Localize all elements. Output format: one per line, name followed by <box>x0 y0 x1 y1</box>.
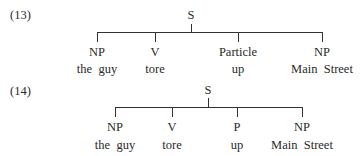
node-words: up <box>232 62 245 76</box>
node-words: Main Street <box>271 138 333 152</box>
node-label: NP <box>314 45 330 59</box>
node-label: V <box>150 45 159 59</box>
branch-bar <box>115 107 303 108</box>
node-words: the guy <box>77 62 117 76</box>
node-words: up <box>231 138 244 152</box>
branch-stem <box>172 107 173 117</box>
branch-stem <box>115 107 116 117</box>
root-stem <box>191 24 192 32</box>
example-number: (14) <box>10 84 31 98</box>
branch-stem <box>238 32 239 42</box>
node-label: NP <box>89 45 105 59</box>
node-label: V <box>167 120 176 134</box>
branch-stem <box>302 107 303 117</box>
root-stem <box>208 98 209 107</box>
syntax-tree-13: (13) S NP the guy V tore Particle up NP … <box>0 0 361 78</box>
node-words: tore <box>162 138 181 152</box>
example-number: (13) <box>10 8 31 22</box>
node-label: Particle <box>219 45 257 59</box>
branch-stem <box>237 107 238 117</box>
node-label: NP <box>294 120 310 134</box>
branch-stem <box>155 32 156 42</box>
node-words: tore <box>145 62 164 76</box>
syntax-tree-14: (14) S NP the guy V tore P up NP Main St… <box>0 76 361 154</box>
branch-stem <box>322 32 323 42</box>
branch-bar <box>97 32 323 33</box>
node-words: Main Street <box>291 62 353 76</box>
tree-root-label: S <box>188 8 195 22</box>
node-words: the guy <box>95 138 135 152</box>
node-label: P <box>234 120 241 134</box>
branch-stem <box>97 32 98 42</box>
tree-root-label: S <box>205 83 212 97</box>
node-label: NP <box>107 120 123 134</box>
